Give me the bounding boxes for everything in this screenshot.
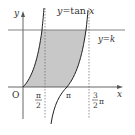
y-axis-arrow-icon [21,11,25,17]
origin-label: O [12,90,19,100]
tick-pi: π [66,91,71,100]
tick-three-half-pi-num: 3 [93,91,98,100]
y-axis-label: y [13,8,20,18]
tan-diagram: y y=tan x y=k O x π 2 π 3 2 π [0,0,135,135]
tick-three-half-pi-den: 2 [93,101,98,110]
x-axis-label: x [117,89,122,99]
tick-half-pi-den: 2 [36,101,41,110]
tick-three-half-pi-suffix: π [99,97,104,106]
tick-half-pi-num: π [36,91,41,100]
k-line-label: y=k [97,34,115,44]
function-label: y=tan x [56,5,95,16]
shaded-region [23,30,86,87]
